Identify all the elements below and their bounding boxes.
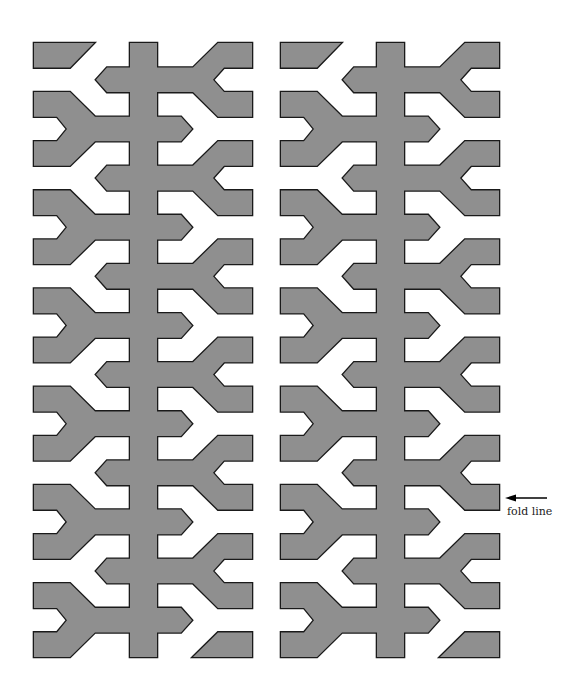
fold-line-arrow-icon (505, 495, 547, 502)
shape-fills (34, 43, 499, 657)
fold-line-label: fold line (507, 505, 552, 518)
y-pattern-diagram (0, 0, 580, 693)
